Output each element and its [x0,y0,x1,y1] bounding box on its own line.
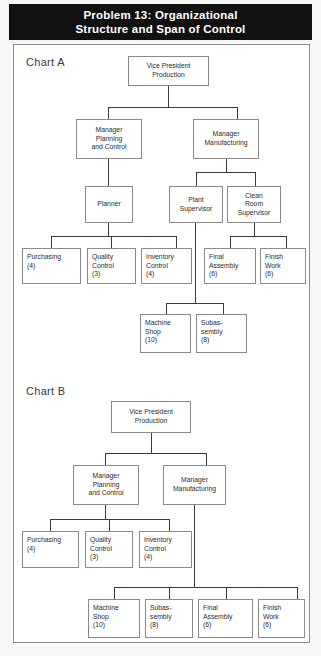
connector-a-to-finish-work [286,236,287,248]
node-chart-a-clean-room-supervisor: Clean Room Supervisor [227,186,281,223]
connector-a-plant-supervisor-stem [195,223,196,304]
connector-b-to-mgr-planning [105,453,106,465]
chart-a-label: Chart A [26,56,65,68]
connector-b-to-subassembly [169,587,170,599]
node-chart-b-finish-work: Finish Work (6) [258,599,305,638]
node-chart-a-machine-shop: Machine Shop (10) [140,314,191,353]
charts-frame: Chart A Vice President Production Manage… [13,44,310,643]
connector-a-to-final-assembly [230,236,231,248]
connector-a-cleanroom-stem [254,223,255,237]
node-chart-b-quality-control: Quality Control (3) [85,531,133,568]
page-title: Problem 13: Organizational Structure and… [76,8,246,36]
connector-b-mfg-stem [194,505,195,588]
connector-b-to-quality-control [109,519,110,531]
connector-a-vp-stem [168,86,169,108]
node-chart-b-inventory-control: Inventory Control (4) [139,531,192,568]
node-chart-b-final-assembly: Final Assembly (6) [198,599,253,638]
node-chart-a-subassembly: Subas- sembly (8) [196,314,247,353]
connector-a-to-purchasing [51,236,52,248]
node-chart-a-quality-control: Quality Control (3) [87,248,136,284]
node-chart-a-manager-planning: Manager Planning and Control [76,119,142,159]
page-canvas: Problem 13: Organizational Structure and… [0,0,321,656]
connector-a-mfg-stem [226,159,227,173]
node-chart-b-vice-president: Vice President Production [111,401,191,433]
connector-b-vp-stem [151,433,152,454]
connector-a-to-clean-room-supervisor [255,172,256,186]
node-chart-a-inventory-control: Inventory Control (4) [141,248,192,284]
connector-b-vp-bus [105,453,207,454]
node-chart-a-purchasing: Purchasing (4) [22,248,81,284]
connector-b-to-mgr-manufacturing [206,453,207,465]
connector-a-to-plant-supervisor [196,172,197,186]
connector-b-to-final-assembly [226,587,227,599]
chart-b-label: Chart B [26,385,65,397]
connector-a-vp-bus [108,107,238,108]
connector-b-to-purchasing [50,519,51,531]
connector-b-to-inventory-control [169,519,170,531]
connector-a-cleanroom-bus [230,236,287,237]
node-chart-a-vice-president: Vice President Production [128,56,209,86]
node-chart-b-manager-manufacturing: Manager Manufacturing [163,465,226,505]
node-chart-b-manager-planning: Manager Planning and Control [73,465,139,505]
connector-b-planning-stem [105,505,106,520]
connector-a-to-machine-shop [166,303,167,314]
node-chart-a-manager-manufacturing: Manager Manufacturing [193,119,259,159]
connector-a-to-quality-control [111,236,112,248]
connector-a-planner-stem [108,223,109,237]
node-chart-a-plant-supervisor: Plant Supervisor [169,186,223,223]
connector-a-planner-bus [51,236,177,237]
connector-a-planning-to-planner [108,159,109,186]
connector-b-to-machine-shop [114,587,115,599]
connector-b-to-finish-work [297,587,298,599]
node-chart-a-finish-work: Finish Work (6) [260,248,306,284]
problem-title-bar: Problem 13: Organizational Structure and… [9,4,312,40]
node-chart-b-machine-shop: Machine Shop (10) [88,599,140,638]
connector-b-mfg-bus [114,587,298,588]
node-chart-a-planner: Planner [85,186,133,223]
connector-a-plant-supervisor-bus [166,303,224,304]
node-chart-b-subassembly: Subas- sembly (8) [145,599,193,638]
node-chart-b-purchasing: Purchasing (4) [22,531,79,568]
node-chart-a-final-assembly: Final Assembly (6) [204,248,256,284]
connector-a-to-mgr-planning [108,107,109,119]
connector-a-to-subassembly [223,303,224,314]
connector-a-to-mgr-manufacturing [237,107,238,119]
connector-a-mfg-bus [196,172,256,173]
connector-a-to-inventory-control [176,236,177,248]
